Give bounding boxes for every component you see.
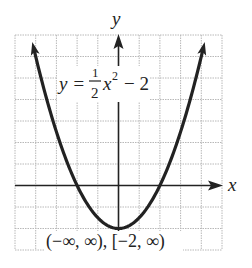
equation-label: y = 1 2 x 2 − 2 <box>57 65 149 102</box>
equation-fraction-numerator: 1 <box>92 65 99 80</box>
function-graph: y x y = 1 2 x 2 − 2 (−∞, ∞), [−2, ∞) <box>0 0 252 268</box>
equation-exponent: 2 <box>112 69 118 83</box>
x-axis-label: x <box>227 174 237 195</box>
equation-lhs: y = <box>57 73 85 94</box>
domain-range-text: (−∞, ∞), [−2, ∞) <box>46 231 165 252</box>
y-axis-label: y <box>110 8 121 29</box>
equation-variable: x <box>102 73 112 94</box>
domain-range-annotation: (−∞, ∞), [−2, ∞) <box>45 231 183 252</box>
equation-constant: − 2 <box>124 73 149 94</box>
equation-fraction-denominator: 2 <box>91 85 99 101</box>
